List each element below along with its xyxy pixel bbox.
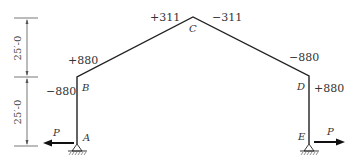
load-arrow-left-icon bbox=[43, 140, 74, 147]
moment-c-left: +311 bbox=[150, 11, 180, 24]
pin-support-a-icon bbox=[68, 144, 87, 155]
point-label-e: E bbox=[297, 131, 306, 142]
load-label-left: P bbox=[52, 127, 60, 138]
load-arrow-right-icon bbox=[314, 139, 345, 146]
gable-frame-diagram: 25′-0 25′-0 A B C D E +880 −880 +311 −31… bbox=[0, 0, 360, 159]
point-label-c: C bbox=[189, 23, 197, 34]
moment-b-inner: −880 bbox=[46, 85, 76, 98]
moment-d-outer: −880 bbox=[289, 51, 319, 64]
point-label-d: D bbox=[296, 81, 305, 92]
dimension-upper-label: 25′-0 bbox=[12, 36, 23, 61]
moment-b-outer: +880 bbox=[68, 54, 98, 67]
pin-support-e-icon bbox=[300, 144, 319, 155]
frame-members bbox=[77, 17, 309, 144]
moment-c-right: −311 bbox=[212, 11, 242, 24]
dimension-lower-label: 25′-0 bbox=[12, 100, 23, 125]
load-label-right: P bbox=[326, 126, 334, 137]
point-label-a: A bbox=[82, 132, 90, 143]
point-label-b: B bbox=[81, 82, 89, 93]
moment-d-inner: +880 bbox=[314, 82, 344, 95]
